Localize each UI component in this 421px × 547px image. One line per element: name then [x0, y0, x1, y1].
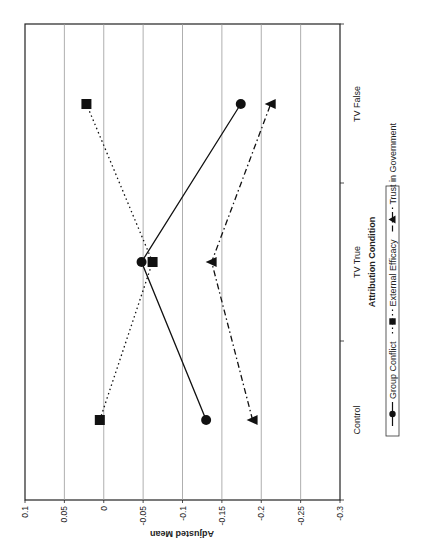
value-tick-label: -0.05	[138, 506, 148, 526]
value-tick-label: 0.05	[59, 506, 69, 523]
value-tick-label: -0.2	[256, 506, 266, 521]
circle-marker	[137, 257, 147, 267]
value-tick-label: -0.3	[335, 506, 345, 521]
category-label: TV False	[352, 86, 362, 122]
square-marker	[389, 318, 395, 324]
value-tick-label: -0.1	[178, 506, 188, 521]
value-tick-label: 0	[99, 506, 109, 511]
circle-marker	[201, 415, 211, 425]
square-marker	[148, 257, 158, 267]
legend-label: Trust in Government	[388, 122, 398, 204]
legend-item: Group Conflict	[388, 341, 398, 426]
circle-marker	[236, 99, 246, 109]
value-axis-tick-labels: 0.10.050-0.05-0.1-0.15-0.2-0.25-0.3	[20, 506, 345, 526]
value-tick-label: -0.15	[217, 506, 227, 526]
legend-item: Trust in Government	[388, 122, 398, 231]
line-chart: 0.10.050-0.05-0.1-0.15-0.2-0.25-0.3 Cont…	[0, 0, 421, 547]
legend-item: External Efficacy	[388, 239, 398, 333]
category-label: TV True	[352, 246, 362, 278]
value-tick-label: -0.25	[296, 506, 306, 526]
category-axis-title: Attribution Condition	[367, 217, 377, 307]
square-marker	[95, 415, 105, 425]
circle-marker	[389, 411, 395, 417]
square-marker	[81, 99, 91, 109]
value-tick-label: 0.1	[20, 506, 30, 518]
value-axis-title: Adjusted Mean	[150, 529, 214, 539]
legend: Group ConflictExternal EfficacyTrust in …	[386, 122, 399, 436]
legend-label: External Efficacy	[388, 239, 398, 306]
category-label: Control	[352, 405, 362, 434]
legend-label: Group Conflict	[388, 341, 398, 399]
category-axis-labels: ControlTV TrueTV False	[352, 86, 362, 435]
